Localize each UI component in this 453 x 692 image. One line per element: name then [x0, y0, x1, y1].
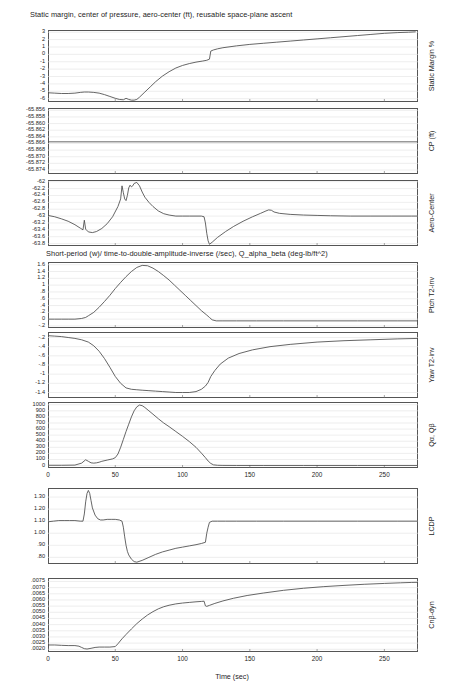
x-tick-label: 150	[244, 472, 255, 478]
y-tick-labels: .0075.0070.0065.0060.0055.0050.0045.0040…	[2, 578, 45, 652]
y-tick-label: -.2	[38, 335, 45, 341]
x-tick-label: 200	[312, 656, 323, 662]
y-tick-label: -.4	[38, 344, 45, 350]
x-tick-label: 250	[379, 472, 390, 478]
y-tick-label: -63.2	[32, 220, 45, 226]
x-tick-label: 50	[112, 656, 119, 662]
y-tick-label: .90	[37, 543, 45, 549]
y-tick-labels: 3210-1-2-3-4-5-6	[2, 30, 45, 102]
y-tick-label: .6	[40, 296, 45, 302]
y-tick-labels: -62-62.2-62.4-62.6-62.8-63-63.2-63.4-63.…	[2, 180, 45, 246]
y-axis-label-pitch-t2-inverse: Ptch T2-inv	[427, 277, 436, 313]
y-axis-label-static-margin: Static Margin %	[427, 41, 436, 91]
y-tick-label: 1.2	[37, 276, 45, 282]
y-tick-labels: 1.61.41.21.8.6.4.20-.2	[2, 262, 45, 328]
y-tick-label: -1	[40, 371, 45, 377]
y-tick-label: 1	[42, 282, 45, 288]
y-tick-label: 0	[42, 463, 45, 469]
y-tick-label: 1	[42, 44, 45, 50]
y-tick-label: -3	[40, 74, 45, 80]
plot-panel-cn-beta-dyn: .0075.0070.0065.0060.0055.0050.0045.0040…	[48, 578, 418, 652]
group-two-title: Short-period (w)/ time-to-double-amplitu…	[46, 249, 328, 258]
panel-canvas	[48, 180, 418, 246]
y-tick-label: 1.20	[34, 506, 45, 512]
series-line-cn-beta-dyn	[48, 582, 418, 649]
panel-canvas	[48, 488, 418, 564]
panel-canvas	[48, 332, 418, 398]
y-tick-label: -62.8	[32, 206, 45, 212]
y-tick-label: .0020	[31, 646, 45, 652]
y-tick-label: 0	[42, 316, 45, 322]
y-tick-label: 1.6	[37, 262, 45, 268]
y-tick-label: -1.2	[35, 381, 45, 387]
plot-panel-q-alpha-q-beta: 10009008007006005004003002001000Qα, Qβ05…	[48, 402, 418, 468]
y-tick-labels: 10009008007006005004003002001000	[2, 402, 45, 468]
y-tick-label: -62.4	[32, 193, 45, 199]
group-one-title: Static margin, center of pressure, aero-…	[30, 10, 292, 19]
y-tick-label: 2	[42, 37, 45, 43]
multi-panel-time-history-figure: Static margin, center of pressure, aero-…	[0, 0, 453, 692]
y-tick-label: -62.6	[32, 200, 45, 206]
y-tick-label: 1.30	[34, 494, 45, 500]
x-tick-label: 0	[46, 472, 50, 478]
y-axis-label-lcdp: LCDP	[427, 516, 436, 535]
y-tick-label: -5	[40, 88, 45, 94]
y-tick-label: .8	[40, 289, 45, 295]
panel-canvas	[48, 402, 418, 468]
panel-canvas	[48, 30, 418, 102]
y-tick-labels: -.2-.4-.6-.8-1-1.2-1.4	[2, 332, 45, 398]
x-tick-label: 0	[46, 656, 50, 662]
y-tick-label: -1.4	[35, 390, 45, 396]
x-tick-label: 200	[312, 472, 323, 478]
x-tick-label: 150	[244, 656, 255, 662]
x-tick-label: 100	[177, 656, 188, 662]
y-tick-label: -.6	[38, 353, 45, 359]
x-tick-label: 100	[177, 472, 188, 478]
plot-panel-lcdp: 1.301.201.101.00.90.80LCDP	[48, 488, 418, 564]
y-tick-label: -1	[40, 59, 45, 65]
y-tick-label: -63	[37, 213, 45, 219]
y-tick-label: -4	[40, 81, 45, 87]
y-tick-label: -62.2	[32, 186, 45, 192]
y-tick-labels: 1.301.201.101.00.90.80	[2, 488, 45, 564]
plot-panel-center-of-pressure: -65.856-65.858-65.860-65.862-65.864-65.8…	[48, 108, 418, 174]
y-tick-label: -65.874	[26, 167, 45, 173]
y-tick-label: .2	[40, 310, 45, 316]
series-line-static-margin	[48, 32, 415, 100]
y-tick-label: .4	[40, 303, 45, 309]
series-line-yaw-t2-inverse	[48, 336, 418, 393]
y-tick-label: -.2	[38, 323, 45, 329]
y-axis-label-q-alpha-q-beta: Qα, Qβ	[427, 423, 436, 446]
x-tick-label: 50	[112, 472, 119, 478]
plot-panel-yaw-t2-inverse: -.2-.4-.6-.8-1-1.2-1.4Yaw T2-inv	[48, 332, 418, 398]
y-tick-label: -63.8	[32, 241, 45, 247]
y-tick-label: -63.4	[32, 227, 45, 233]
y-tick-label: 0	[42, 52, 45, 58]
y-axis-label-center-of-pressure: CP (ft)	[427, 131, 436, 152]
x-tick-label: 250	[379, 656, 390, 662]
panel-canvas	[48, 262, 418, 328]
panel-canvas	[48, 108, 418, 174]
y-tick-label: -6	[40, 96, 45, 102]
y-tick-label: 1.00	[34, 530, 45, 536]
y-axis-label-yaw-t2-inverse: Yaw T2-inv	[427, 347, 436, 382]
x-axis-label: Time (sec)	[215, 672, 249, 681]
y-tick-labels: -65.856-65.858-65.860-65.862-65.864-65.8…	[2, 108, 45, 174]
y-tick-label: 1.10	[34, 518, 45, 524]
y-tick-label: -2	[40, 66, 45, 72]
y-tick-label: 1.4	[37, 269, 45, 275]
plot-panel-static-margin: 3210-1-2-3-4-5-6Static Margin %	[48, 30, 418, 102]
panel-canvas	[48, 578, 418, 652]
plot-panel-pitch-t2-inverse: 1.61.41.21.8.6.4.20-.2Ptch T2-inv	[48, 262, 418, 328]
y-tick-label: -63.6	[32, 234, 45, 240]
series-line-lcdp	[48, 490, 418, 562]
y-tick-label: -62	[37, 179, 45, 185]
y-tick-label: .80	[37, 555, 45, 561]
plot-panel-aero-center: -62-62.2-62.4-62.6-62.8-63-63.2-63.4-63.…	[48, 180, 418, 246]
series-line-aero-center	[48, 182, 418, 244]
y-tick-label: -.8	[38, 362, 45, 368]
y-tick-label: 3	[42, 29, 45, 35]
y-axis-label-cn-beta-dyn: Cnβ-dyn	[427, 601, 436, 628]
y-axis-label-aero-center: Aero-Center	[427, 193, 436, 232]
